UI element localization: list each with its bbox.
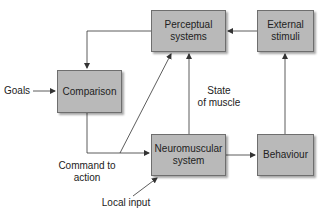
arrow-comparison-to-neuromuscular — [87, 113, 149, 153]
local-input-label: Local input — [98, 197, 154, 209]
comparison-box: Comparison — [57, 70, 122, 113]
state-of-muscle-label: State of muscle — [194, 85, 244, 109]
goals-label: Goals — [4, 85, 30, 97]
arrow-local-input-to-neuromuscular — [133, 178, 157, 196]
perceptual-systems-box: Perceptual systems — [151, 10, 226, 52]
arrow-perceptual-to-comparison — [87, 31, 151, 68]
command-to-action-label: Command to action — [52, 160, 122, 184]
behaviour-box: Behaviour — [257, 134, 314, 176]
external-stimuli-box: External stimuli — [257, 10, 314, 52]
neuromuscular-system-box: Neuromuscular system — [151, 134, 226, 176]
motor-control-diagram: Perceptual systems External stimuli Comp… — [0, 0, 325, 217]
